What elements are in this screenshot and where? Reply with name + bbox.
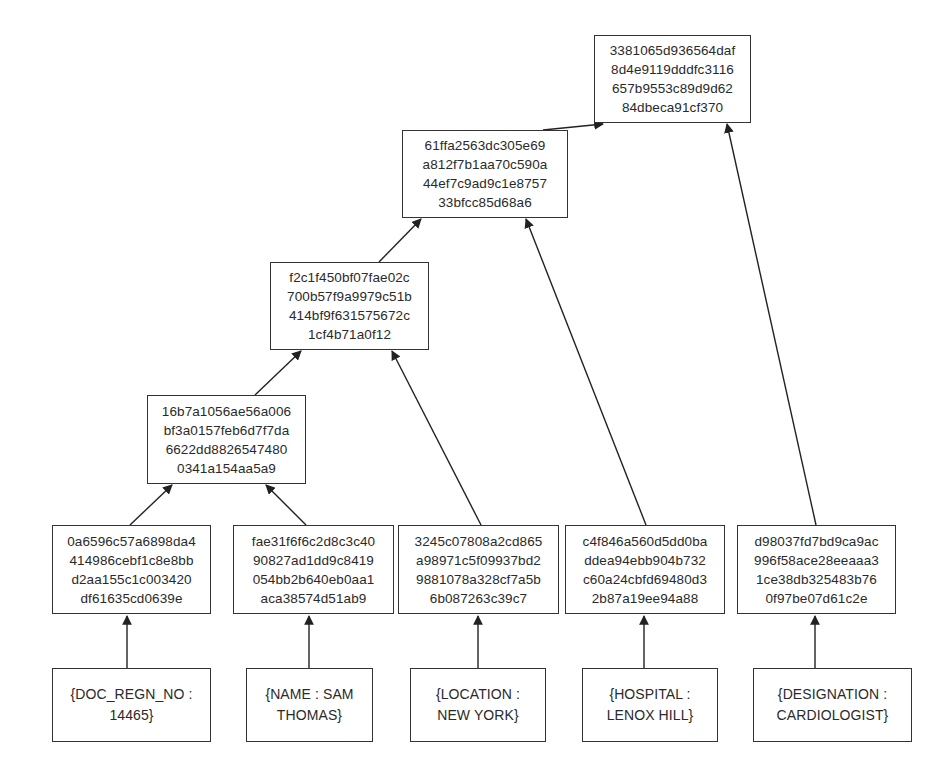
arrow-l1-l2 xyxy=(255,351,301,395)
hash-line: 44ef7c9ad9c1e8757 xyxy=(423,174,547,193)
hash-line: c4f846a560d5dd0ba xyxy=(583,532,708,551)
arrow-l2-l3 xyxy=(379,219,421,262)
data-line: NEW YORK} xyxy=(437,705,519,726)
data-block-name: {NAME : SAM THOMAS} xyxy=(246,668,373,742)
hash-line: 33bfcc85d68a6 xyxy=(438,193,532,212)
data-block-designation: {DESIGNATION : CARDIOLOGIST} xyxy=(753,668,912,742)
data-line: {HOSPITAL : xyxy=(609,684,690,705)
leaf-hash-node-3: c4f846a560d5dd0ba ddea94ebb904b732 c60a2… xyxy=(565,525,725,614)
data-line: THOMAS} xyxy=(277,705,342,726)
leaf-hash-node-4: d98037fd7bd9ca9ac 996f58ace28eeaaa3 1ce3… xyxy=(737,525,896,614)
data-line: LENOX HILL} xyxy=(607,705,694,726)
data-line: {DOC_REGN_NO : xyxy=(71,684,193,705)
hash-line: aca38574d51ab9 xyxy=(261,589,367,608)
hash-line: 6b087263c39c7 xyxy=(430,589,527,608)
hash-line: 414bf9f631575672c xyxy=(289,306,410,325)
hash-line: c60a24cbfd69480d3 xyxy=(583,570,707,589)
data-line: 14465} xyxy=(109,705,153,726)
edges-layer xyxy=(0,0,952,782)
data-line: {LOCATION : xyxy=(436,684,520,705)
hash-line: f2c1f450bf07fae02c xyxy=(289,268,409,287)
data-line: CARDIOLOGIST} xyxy=(777,705,889,726)
hash-line: 700b57f9a9979c51b xyxy=(287,287,412,306)
hash-line: 16b7a1056ae56a006 xyxy=(162,402,291,421)
hash-line: d2aa155c1c003420 xyxy=(71,570,191,589)
hash-line: 0a6596c57a6898da4 xyxy=(67,532,196,551)
hash-line: 657b9553c89d9d62 xyxy=(612,79,733,98)
data-line: {DESIGNATION : xyxy=(778,684,887,705)
hash-line: 9881078a328cf7a5b xyxy=(416,570,541,589)
level3-hash-node: 61ffa2563dc305e69 a812f7b1aa70c590a 44ef… xyxy=(402,130,568,218)
hash-line: 2b87a19ee94a88 xyxy=(592,589,699,608)
hash-line: fae31f6f6c2d8c3c40 xyxy=(252,532,375,551)
arrow-leaf0-l1 xyxy=(130,485,172,525)
hash-line: 0341a154aa5a9 xyxy=(177,459,276,478)
hash-line: 61ffa2563dc305e69 xyxy=(425,136,546,155)
hash-line: 0f97be07d61c2e xyxy=(766,589,868,608)
leaf-hash-node-1: fae31f6f6c2d8c3c40 90827ad1dd9c8419 054b… xyxy=(233,525,394,614)
hash-line: d98037fd7bd9ca9ac xyxy=(754,532,878,551)
data-block-doc-regn-no: {DOC_REGN_NO : 14465} xyxy=(52,668,211,742)
hash-line: 414986cebf1c8e8bb xyxy=(69,551,193,570)
hash-line: 90827ad1dd9c8419 xyxy=(253,551,374,570)
level1-hash-node: 16b7a1056ae56a006 bf3a0157feb6d7f7da 662… xyxy=(147,395,306,484)
hash-line: 054bb2b640eb0aa1 xyxy=(253,570,375,589)
hash-line: df61635cd0639e xyxy=(81,589,183,608)
hash-line: 1ce38db325483b76 xyxy=(756,570,877,589)
leaf-hash-node-2: 3245c07808a2cd865 a98971c5f09937bd2 9881… xyxy=(398,525,559,614)
arrow-leaf4-root xyxy=(727,124,816,525)
data-block-hospital: {HOSPITAL : LENOX HILL} xyxy=(582,668,718,742)
hash-line: 84dbeca91cf370 xyxy=(622,98,723,117)
hash-line: 3381065d936564daf xyxy=(610,41,736,60)
data-line: {NAME : SAM xyxy=(265,684,353,705)
hash-line: 6622dd8826547480 xyxy=(166,440,288,459)
root-hash-node: 3381065d936564daf 8d4e9119dddfc3116 657b… xyxy=(594,35,751,123)
arrow-leaf1-l1 xyxy=(266,485,306,525)
hash-line: ddea94ebb904b732 xyxy=(584,551,706,570)
hash-line: 8d4e9119dddfc3116 xyxy=(611,60,734,79)
hash-line: a812f7b1aa70c590a xyxy=(423,155,548,174)
hash-line: 1cf4b71a0f12 xyxy=(308,325,391,344)
level2-hash-node: f2c1f450bf07fae02c 700b57f9a9979c51b 414… xyxy=(270,262,429,350)
hash-line: 996f58ace28eeaaa3 xyxy=(754,551,879,570)
hash-line: 3245c07808a2cd865 xyxy=(415,532,543,551)
arrow-leaf3-l3 xyxy=(526,219,646,525)
hash-line: a98971c5f09937bd2 xyxy=(416,551,541,570)
leaf-hash-node-0: 0a6596c57a6898da4 414986cebf1c8e8bb d2aa… xyxy=(52,525,211,614)
arrow-leaf2-l2 xyxy=(392,351,481,525)
data-block-location: {LOCATION : NEW YORK} xyxy=(410,668,546,742)
hash-line: bf3a0157feb6d7f7da xyxy=(164,421,290,440)
